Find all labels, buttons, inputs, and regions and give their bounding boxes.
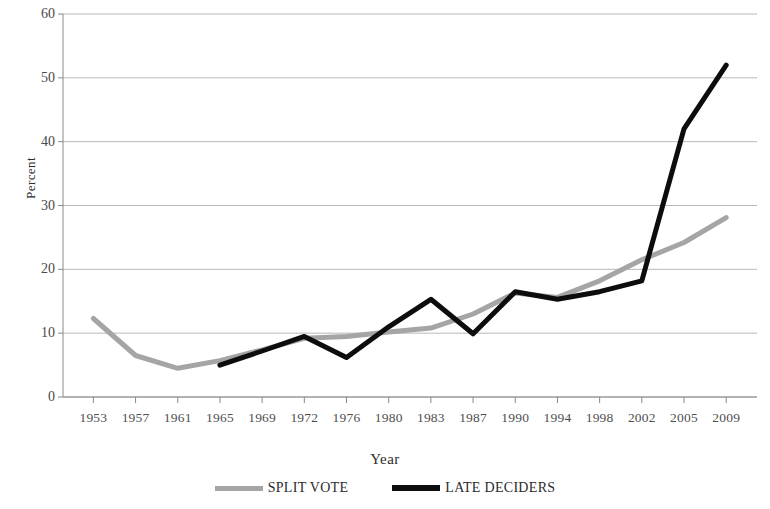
gridlines [58, 14, 757, 397]
x-axis-title: Year [0, 451, 770, 468]
x-tick-label-1983: 1983 [409, 411, 453, 425]
x-tick-label-1961: 1961 [156, 411, 200, 425]
x-tick-label-1994: 1994 [535, 411, 579, 425]
x-tick-label-1953: 1953 [71, 411, 115, 425]
x-tick-label-2002: 2002 [620, 411, 664, 425]
x-tick-label-2005: 2005 [662, 411, 706, 425]
x-tick-label-1976: 1976 [325, 411, 369, 425]
legend-label-split-vote: SPLIT VOTE [268, 480, 349, 496]
x-tick-label-1972: 1972 [282, 411, 326, 425]
x-tick-label-1990: 1990 [493, 411, 537, 425]
series-line-late-deciders [220, 65, 726, 365]
x-tick-label-1980: 1980 [367, 411, 411, 425]
x-tick-label-1957: 1957 [114, 411, 158, 425]
legend-label-late-deciders: LATE DECIDERS [445, 480, 555, 496]
legend-item-late-deciders: LATE DECIDERS [392, 480, 555, 496]
legend-swatch-icon-split-vote [215, 486, 263, 491]
x-tick-label-1998: 1998 [578, 411, 622, 425]
legend-swatch-icon-late-deciders [392, 485, 440, 491]
chart-legend: SPLIT VOTE LATE DECIDERS [0, 480, 770, 496]
legend-item-split-vote: SPLIT VOTE [215, 480, 349, 496]
line-chart: Percent 60 50 40 30 20 10 0 195319571961… [0, 0, 770, 509]
plot-area [0, 0, 770, 509]
x-axis-ticks [93, 397, 726, 403]
x-tick-label-1987: 1987 [451, 411, 495, 425]
series-line-split-vote [93, 218, 726, 369]
x-tick-label-1965: 1965 [198, 411, 242, 425]
x-tick-label-2009: 2009 [704, 411, 748, 425]
x-tick-label-1969: 1969 [240, 411, 284, 425]
